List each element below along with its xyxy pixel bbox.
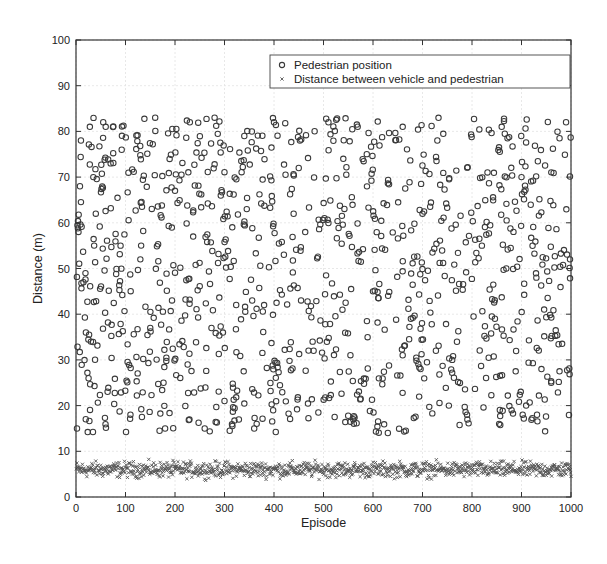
x-tick-label: 900 xyxy=(512,502,530,514)
y-tick-label: 50 xyxy=(58,263,70,275)
legend-entry-distance: Distance between vehicle and pedestrian xyxy=(294,73,504,85)
legend-entry-pedestrian-position: Pedestrian position xyxy=(294,59,392,71)
y-tick-label: 70 xyxy=(58,171,70,183)
y-tick-labels: 0102030405060708090100 xyxy=(52,34,70,503)
x-tick-labels: 01002003004005006007008009001000 xyxy=(73,502,583,514)
x-tick-label: 100 xyxy=(116,502,134,514)
pedestrian-position-series xyxy=(74,115,573,436)
y-tick-label: 60 xyxy=(58,217,70,229)
legend: Pedestrian position Distance between veh… xyxy=(270,55,570,88)
x-axis-label: Episode xyxy=(301,516,346,530)
y-tick-label: 40 xyxy=(58,308,70,320)
y-tick-label: 80 xyxy=(58,125,70,137)
x-tick-label: 0 xyxy=(73,502,79,514)
x-tick-label: 500 xyxy=(314,502,332,514)
scatter-chart: 01002003004005006007008009001000 0102030… xyxy=(0,0,607,564)
y-tick-label: 10 xyxy=(58,445,70,457)
x-tick-label: 200 xyxy=(166,502,184,514)
x-tick-label: 600 xyxy=(364,502,382,514)
x-tick-label: 300 xyxy=(215,502,233,514)
y-axis-label: Distance (m) xyxy=(31,233,45,304)
x-tick-label: 700 xyxy=(413,502,431,514)
y-tick-label: 30 xyxy=(58,354,70,366)
y-tick-label: 20 xyxy=(58,400,70,412)
x-tick-label: 1000 xyxy=(559,502,583,514)
y-tick-label: 0 xyxy=(64,491,70,503)
x-tick-label: 800 xyxy=(463,502,481,514)
y-tick-label: 90 xyxy=(58,80,70,92)
y-tick-label: 100 xyxy=(52,34,70,46)
grid-lines xyxy=(76,40,571,497)
x-tick-label: 400 xyxy=(265,502,283,514)
